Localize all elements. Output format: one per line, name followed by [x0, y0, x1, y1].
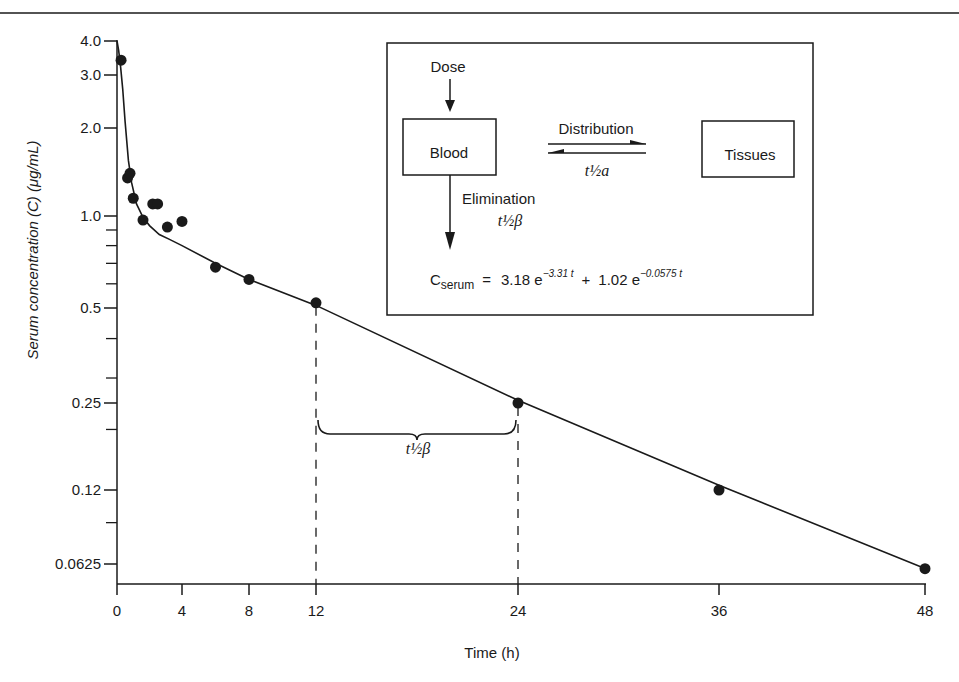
data-point: [162, 222, 173, 233]
y-tick-label: 4.0: [80, 32, 101, 49]
y-tick-label: 0.0625: [55, 555, 101, 572]
brace-label: t½β: [406, 440, 430, 458]
equation-lhs: C: [430, 271, 441, 288]
compartment-model-inset: Dose Blood Tissues Distribution t½a Elim…: [387, 43, 813, 315]
data-point: [714, 485, 725, 496]
data-point: [128, 193, 139, 204]
x-tick-label: 4: [178, 602, 186, 619]
elimination-halflife: t½β: [498, 212, 522, 230]
blood-label: Blood: [430, 144, 468, 161]
y-tick-label: 3.0: [80, 66, 101, 83]
x-axis-title: Time (h): [464, 644, 519, 661]
y-tick-label: 0.5: [80, 299, 101, 316]
x-tick-label: 48: [917, 602, 934, 619]
data-point: [138, 215, 149, 226]
equation-eq: =: [482, 271, 491, 288]
data-point: [311, 297, 322, 308]
distribution-halflife: t½a: [585, 162, 609, 179]
x-tick-label: 24: [510, 602, 527, 619]
equation-lhs-sub: serum: [441, 278, 474, 292]
data-point: [125, 168, 136, 179]
data-point: [920, 563, 931, 574]
data-point: [210, 262, 221, 273]
data-point: [116, 55, 127, 66]
equation-term2-coef: 1.02 e: [598, 271, 640, 288]
x-tick-label: 12: [308, 602, 325, 619]
data-point: [244, 274, 255, 285]
equation-term1-exp: −3.31 t: [543, 268, 575, 279]
equation-term2-exp: −0.0575 t: [640, 268, 683, 279]
dose-label: Dose: [430, 58, 465, 75]
data-point: [177, 216, 188, 227]
tissues-label: Tissues: [724, 146, 775, 163]
pharmacokinetic-chart: 4.03.02.01.00.50.250.120.0625 0481224364…: [0, 0, 959, 682]
x-axis-ticks: 04812243648: [113, 584, 934, 619]
x-tick-label: 8: [245, 602, 253, 619]
distribution-label: Distribution: [558, 120, 633, 137]
x-tick-label: 36: [711, 602, 728, 619]
elimination-label: Elimination: [462, 190, 535, 207]
x-tick-label: 0: [113, 602, 121, 619]
half-life-brace: [318, 420, 516, 440]
data-point: [152, 198, 163, 209]
y-tick-label: 0.25: [72, 394, 101, 411]
y-axis-title: Serum concentration (C) (μg/mL): [24, 140, 41, 359]
y-tick-label: 0.12: [72, 481, 101, 498]
y-tick-label: 2.0: [80, 119, 101, 136]
equation-plus: +: [582, 271, 591, 288]
equation-term1-coef: 3.18 e: [501, 271, 543, 288]
data-point: [513, 398, 524, 409]
y-tick-label: 1.0: [80, 207, 101, 224]
y-axis-ticks: 4.03.02.01.00.50.250.120.0625: [55, 32, 117, 572]
